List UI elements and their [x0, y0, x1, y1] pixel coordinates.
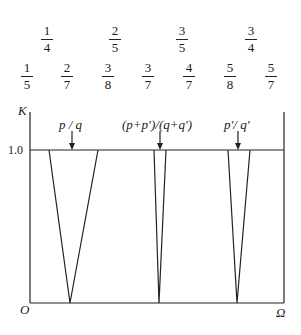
tongue-mediant: [154, 150, 166, 303]
origin-label: O: [20, 302, 29, 318]
tongue-p-q: [49, 150, 98, 303]
y-tick-label: 1.0: [8, 143, 23, 158]
x-axis-label: Ω: [276, 305, 285, 321]
y-axis-label: K: [18, 103, 27, 119]
arrow-label-mediant: (p+p′)/(q+q′): [122, 117, 192, 133]
arrow-label-p2-q2: p′/ q′: [224, 117, 250, 133]
tongue-p2-q2: [228, 150, 250, 303]
arnold-tongue-diagram: [0, 0, 301, 335]
arrow-icon: [235, 143, 241, 150]
arrow-label-p-q: p / q: [59, 117, 82, 133]
arrow-icon: [157, 143, 163, 150]
arrow-icon: [69, 143, 75, 150]
